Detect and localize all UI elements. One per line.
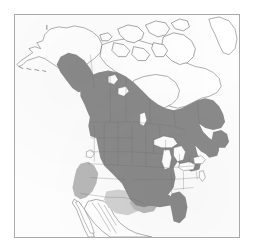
small-island-tick — [46, 25, 47, 30]
map-plate-frame — [14, 14, 240, 238]
north-america-range-map — [15, 15, 239, 237]
range-map-figure: Black and white printed range map of Nor… — [0, 0, 256, 252]
